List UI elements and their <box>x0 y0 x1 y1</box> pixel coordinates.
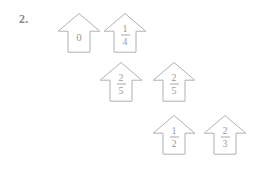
house-two-fifths-a[interactable]: 25 <box>99 61 143 103</box>
exercise-item-number: 2. <box>19 12 28 26</box>
house-outline-icon <box>152 114 196 156</box>
worksheet-canvas: 2. 01425251223 <box>0 0 257 169</box>
house-zero[interactable]: 0 <box>57 12 101 54</box>
house-outline-icon <box>103 12 147 54</box>
house-one-fourth[interactable]: 14 <box>103 12 147 54</box>
house-outline-icon <box>203 114 247 156</box>
house-two-thirds[interactable]: 23 <box>203 114 247 156</box>
house-outline-icon <box>152 61 196 103</box>
house-two-fifths-b[interactable]: 25 <box>152 61 196 103</box>
house-outline-icon <box>57 12 101 54</box>
house-outline-icon <box>99 61 143 103</box>
house-one-half[interactable]: 12 <box>152 114 196 156</box>
